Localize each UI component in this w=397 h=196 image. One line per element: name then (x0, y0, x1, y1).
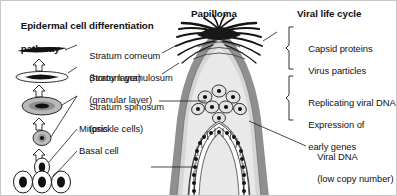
left-panel-title-line2: pathway (21, 43, 60, 54)
mitotic-cell-nucleus (39, 162, 45, 171)
differentiation-arrow-3 (33, 118, 45, 130)
viral-group-viral-dna: Viral DNA (low copy number) (307, 140, 393, 195)
viral-group-replicating-line2: Expression of (308, 119, 364, 130)
label-stratum-spinosum-line1: Stratum spinosum (89, 101, 164, 112)
left-panel-title-line1: Epidermal cell differentiation (21, 20, 154, 31)
viral-group-viral-dna-line1: Viral DNA (317, 151, 358, 162)
viral-group-capsid-line2: Virus particles (308, 65, 366, 76)
label-stratum-spinosum: Stratum spinosum (prickle cells) (79, 90, 164, 145)
right-panel-title: Viral life cycle (297, 8, 361, 20)
basal-cell-row (14, 171, 71, 193)
label-stratum-corneum-line1: Stratum corneum (89, 50, 160, 61)
label-mitosis: Mitosis (79, 123, 108, 134)
viral-group-capsid: Capsid proteins Virus particles (298, 32, 373, 87)
spinosum-nucleus (35, 103, 49, 108)
dividing-cell-nucleus (40, 136, 44, 140)
viral-group-capsid-line1: Capsid proteins (308, 43, 372, 54)
papilloma-diagram: Epidermal cell differentiation pathway S… (0, 0, 397, 196)
center-panel-title: Papilloma (191, 8, 237, 20)
viral-brackets (286, 27, 293, 120)
label-stratum-granulosum-line1: Stratum granulosum (89, 72, 173, 83)
viral-group-viral-dna-line2: (low copy number) (317, 173, 393, 184)
label-basal-cell: Basal cell (79, 145, 119, 156)
differentiation-arrow-2 (33, 85, 45, 97)
viral-group-replicating-line1: Replicating viral DNA (308, 97, 396, 108)
